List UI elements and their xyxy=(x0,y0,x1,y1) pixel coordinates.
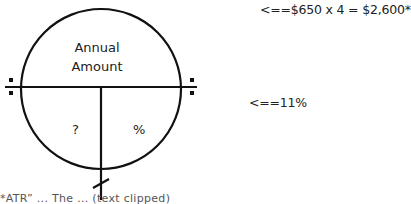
annual-amount-label: Annual Amount xyxy=(47,38,147,76)
unknown-amount-label: ? xyxy=(72,123,79,136)
percent-label: % xyxy=(133,123,145,136)
annual-amount-annotation: <==$650 x 4 = $2,600* xyxy=(260,4,411,17)
annual-label-line2: Amount xyxy=(47,57,147,76)
footnote-clipped-text: *ATR” ... The ... (text clipped) xyxy=(0,193,170,204)
percent-annotation: <==11% xyxy=(249,97,307,110)
annual-label-line1: Annual xyxy=(47,38,147,57)
